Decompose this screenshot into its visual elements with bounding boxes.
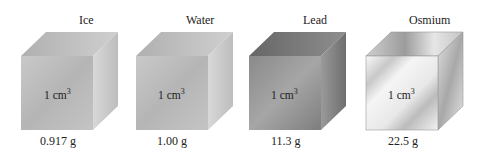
cube-ice <box>21 32 118 130</box>
label-lead: Lead <box>303 13 327 28</box>
cube-water <box>136 32 233 130</box>
label-water: Water <box>186 13 214 28</box>
volume-water: 1 cm3 <box>158 87 185 101</box>
label-ice: Ice <box>79 13 94 28</box>
mass-osmium: 22.5 g <box>388 134 418 149</box>
label-osmium: Osmium <box>409 13 450 28</box>
cube-osmium <box>366 32 463 130</box>
mass-ice: 0.917 g <box>40 134 76 149</box>
mass-water: 1.00 g <box>157 134 187 149</box>
mass-lead: 11.3 g <box>271 134 301 149</box>
volume-lead: 1 cm3 <box>271 87 298 101</box>
volume-osmium: 1 cm3 <box>388 87 415 101</box>
volume-ice: 1 cm3 <box>44 87 71 101</box>
cube-lead <box>249 32 346 130</box>
